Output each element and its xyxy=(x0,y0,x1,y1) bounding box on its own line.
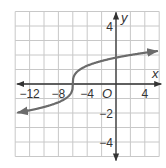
origin-label: O xyxy=(102,86,112,101)
function-graph: −12−8−444−2−4 x y O xyxy=(0,0,166,168)
x-tick-label: −12 xyxy=(19,87,40,101)
y-tick-label: −2 xyxy=(99,107,113,121)
x-tick-label: −4 xyxy=(80,87,94,101)
tick-labels: −12−8−444−2−4 xyxy=(19,20,148,150)
y-tick-label: −4 xyxy=(99,136,113,150)
x-tick-label: 4 xyxy=(141,87,148,101)
y-tick-label: 4 xyxy=(106,20,113,34)
y-axis-label: y xyxy=(120,10,129,25)
x-axis-label: x xyxy=(151,66,159,81)
